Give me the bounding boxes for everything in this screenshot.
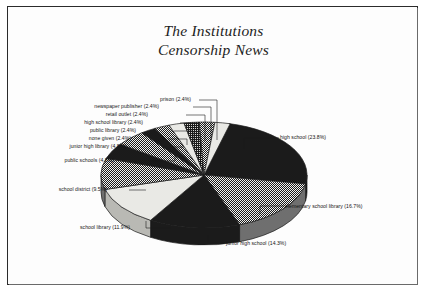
chart-page: The Institutions Censorship News — [0, 0, 426, 293]
slice-label-none-given: none given (2.4%) — [0, 135, 131, 142]
pie-slices — [101, 122, 307, 245]
slice-label-public-schools: public schools (4.8%) — [0, 157, 114, 164]
slice-label-junior-high-library: junior high library (4.8%) — [0, 143, 126, 150]
slice-label-school-library: school library (11.9%) — [0, 224, 130, 231]
slice-label-high-school: high school (23.8%) — [280, 134, 326, 141]
pie-chart: prison (2.4%) newspaper publisher (2.4%)… — [8, 7, 419, 286]
slice-label-newspaper-publisher: newspaper publisher (2.4%) — [0, 103, 159, 110]
slice-label-retail-outlet: retail outlet (2.4%) — [0, 111, 148, 118]
chart-frame: The Institutions Censorship News — [7, 6, 418, 285]
slice-label-junior-high-school: junior high school (14.3%) — [226, 240, 286, 247]
slice-label-high-school-library: high school library (2.4%) — [0, 119, 143, 126]
slice-label-prison: prison (2.4%) — [0, 96, 191, 103]
slice-label-elementary-school-library: elementary school library (16.7%) — [285, 203, 363, 210]
slice-label-school-district: school district (9.5%) — [0, 186, 107, 193]
slice-label-public-library: public library (2.4%) — [0, 127, 136, 134]
